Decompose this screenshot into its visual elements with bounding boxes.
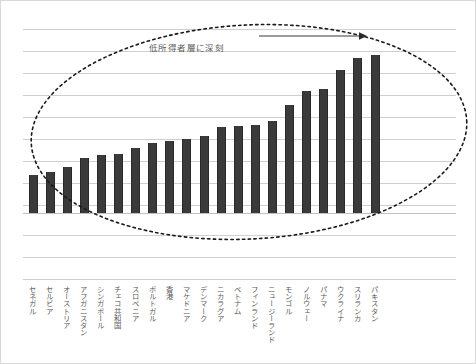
category-label: スロベニア [131, 285, 138, 321]
category-label: スリランカ [353, 285, 360, 321]
category-label: デンマーク [199, 285, 206, 321]
category-label: ベトナム [233, 285, 240, 314]
category-label: ポルトガル [148, 285, 155, 321]
category-label: モンゴル [285, 285, 292, 314]
category-label: セネガル [28, 285, 35, 314]
category-axis-labels: セネガルセルビアオーストリアアフガニスタンシンガポールチェコ共和国スロベニアポル… [1, 1, 476, 364]
category-label: ニュージーランド [267, 285, 274, 343]
category-label: 香港 [165, 285, 172, 299]
category-label: セルビア [45, 285, 52, 314]
category-label: ノルウェー [302, 285, 309, 321]
category-label: アフガニスタン [79, 285, 86, 335]
category-label: ニカラグア [216, 285, 223, 321]
category-label: チェコ共和国 [114, 285, 121, 328]
category-label: マケドニア [182, 285, 189, 321]
category-label: ウクライナ [336, 285, 343, 321]
category-label: オーストリア [62, 285, 69, 328]
category-label: フィンランド [250, 285, 257, 328]
category-label: パキスタン [370, 285, 377, 321]
category-label: シンガポール [96, 285, 103, 328]
category-label: パナマ [319, 285, 326, 307]
chart-canvas: 低所得者層に深刻 セネガルセルビアオーストリアアフガニスタンシンガポールチェコ共… [0, 0, 476, 364]
